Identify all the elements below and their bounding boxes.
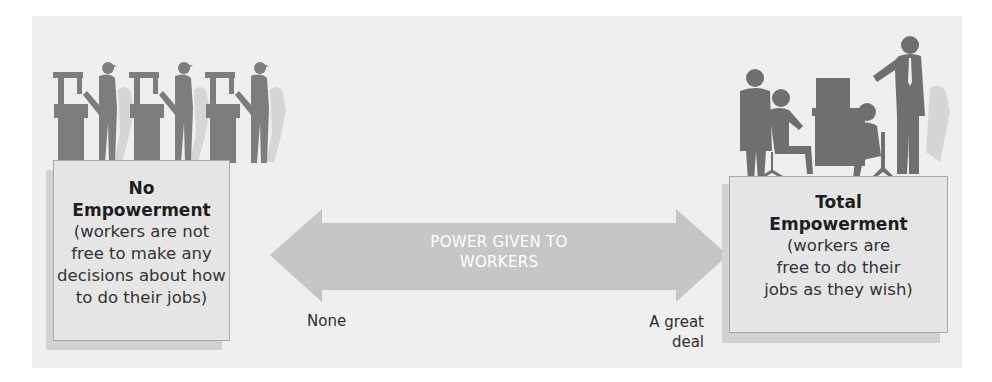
no-empowerment-desc-line1: (workers are not	[54, 221, 229, 243]
total-empowerment-desc-line2: free to do their	[730, 257, 947, 279]
arrow-label-line1: POWER GIVEN TO	[270, 232, 728, 252]
scale-label-a-great-deal: A great deal	[640, 312, 704, 352]
power-given-to-workers-label: POWER GIVEN TO WORKERS	[270, 232, 728, 272]
workers-at-machines-illustration	[50, 60, 290, 165]
no-empowerment-title-line2: Empowerment	[54, 199, 229, 221]
total-empowerment-title-line1: Total	[730, 191, 947, 213]
office-worker-icon	[740, 36, 925, 181]
no-empowerment-desc-line3: decisions about how	[54, 265, 229, 287]
total-empowerment-box: Total Empowerment (workers are free to d…	[729, 176, 948, 333]
no-empowerment-desc-line2: free to make any	[54, 243, 229, 265]
worker-machine-icon	[53, 62, 269, 163]
scale-label-a-great-deal-line1: A great	[640, 312, 704, 332]
total-empowerment-desc-line1: (workers are	[730, 235, 947, 257]
office-team-illustration	[735, 36, 965, 182]
arrow-label-line2: WORKERS	[270, 252, 728, 272]
no-empowerment-title-line1: No	[54, 177, 229, 199]
scale-label-none: None	[307, 311, 346, 331]
scale-label-a-great-deal-line2: deal	[640, 332, 704, 352]
total-empowerment-desc-line3: jobs as they wish)	[730, 279, 947, 301]
no-empowerment-box: No Empowerment (workers are not free to …	[53, 160, 230, 341]
total-empowerment-title-line2: Empowerment	[730, 213, 947, 235]
no-empowerment-desc-line4: to do their jobs)	[54, 287, 229, 309]
